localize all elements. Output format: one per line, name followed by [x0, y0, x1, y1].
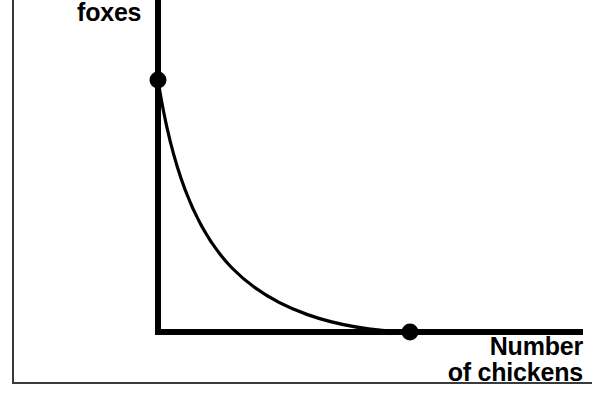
- x-axis-label-line-1: Number: [437, 334, 583, 360]
- data-point-y-intercept: [150, 72, 167, 89]
- x-axis-label-line-2: of chickens: [437, 360, 583, 386]
- y-axis-label: foxes: [77, 0, 141, 26]
- data-point-x-intercept: [402, 324, 419, 341]
- figure-root: foxes Number of chickens: [0, 0, 612, 395]
- isocline-curve: [158, 80, 410, 332]
- x-axis-label: Number of chickens: [437, 334, 583, 385]
